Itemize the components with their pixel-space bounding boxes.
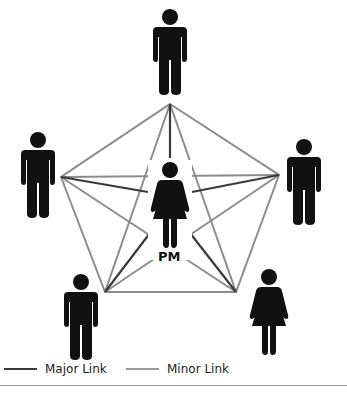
legend: Major Link Minor Link [0,362,347,382]
person-bottom-right-icon [250,269,289,355]
pm-label: PM [158,249,180,264]
minor-link-swatch-icon [126,368,159,370]
major-link-swatch-icon [4,368,37,370]
network-diagram [0,0,347,394]
legend-minor: Minor Link [126,362,229,376]
legend-major-label: Major Link [45,362,107,376]
person-left-icon [21,132,55,218]
divider [0,385,347,386]
legend-major: Major Link [4,362,107,376]
legend-minor-label: Minor Link [167,362,229,376]
person-top-icon [153,9,187,95]
person-right-icon [287,139,321,225]
person-bottom-left-icon [64,274,98,360]
